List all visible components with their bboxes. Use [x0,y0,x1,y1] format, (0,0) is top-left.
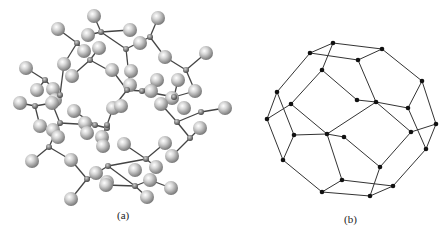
atom-large [165,149,179,163]
atom-small [124,87,130,93]
bond [108,159,146,166]
vertex [356,58,361,63]
atom-large [13,96,27,110]
atom-large [140,190,154,204]
atom-small [74,40,80,46]
atom-large [64,192,78,206]
edge [327,134,342,180]
atom-large [67,104,81,118]
vertex [420,79,425,84]
polyhedron-nodes [265,41,439,199]
atom-large [64,153,78,167]
vertex [265,117,270,122]
atom-large [57,57,71,71]
vertex [292,133,297,138]
atom-small [139,88,145,94]
vertex [391,184,396,189]
edge [358,49,382,60]
atom-large [177,101,191,115]
edge [327,134,344,137]
vertex [342,135,347,140]
edge [344,137,380,167]
edge [322,70,357,100]
atom-large [193,121,207,135]
atom-large [96,139,110,153]
figure: (a) (b) [0,0,448,236]
edge [380,132,411,167]
atom-large [199,46,213,60]
vertex [331,41,336,46]
atom-small [87,57,93,63]
atom-large [144,84,158,98]
panel-a-label: (a) [117,209,129,221]
atom-small [98,29,104,35]
edge [370,167,380,196]
vertex [320,190,325,195]
atom-small [46,144,52,150]
atom-small [132,183,138,189]
vertex [289,102,294,107]
atom-small [42,77,48,83]
vertex [424,147,429,152]
atom-large [51,22,65,36]
atom-large [218,101,232,115]
atom-large [99,178,113,192]
edge [267,92,277,119]
atom-small [174,119,180,125]
polyhedron-edges [267,43,436,196]
edge [426,124,436,149]
edge [310,53,358,60]
atom-large [19,61,33,75]
edge [294,134,327,135]
vertex [380,47,385,52]
atom-large [80,126,94,140]
atom-large [33,119,47,133]
vertex [320,68,325,73]
panel-b-label: (b) [344,213,357,225]
edge [376,102,408,108]
atom-small [198,109,204,115]
vertex [434,122,439,127]
atom-large [81,28,95,42]
atom-large [92,41,106,55]
atom-large [154,97,168,111]
atom-small [92,122,98,128]
edge [342,180,393,186]
edge [283,160,322,192]
edge [333,43,382,49]
bond [177,122,190,138]
atom-small [147,34,153,40]
molecule-ball-stick-diagram [0,0,448,236]
atom-small [104,122,110,128]
atom-large [128,163,142,177]
atom-large [158,50,172,64]
atom-small [187,135,193,141]
atom-large [123,23,137,37]
vertex [275,90,280,95]
edge [322,192,370,196]
edge [267,104,291,119]
edge [376,102,411,132]
atom-large [124,64,138,78]
atom-large [105,63,119,77]
vertex [355,98,360,103]
edge [408,81,422,108]
atom-large [149,160,163,174]
atom-large [158,136,172,150]
vertex [368,194,373,199]
atom-large [25,154,39,168]
atom-small [105,163,111,169]
atom-small [57,92,63,98]
edge [382,49,422,81]
atom-large [30,83,44,97]
vertex [340,178,345,183]
atom-large [164,181,178,195]
edge [393,149,426,186]
atom-large [45,96,59,110]
vertex [378,165,383,170]
vertex [406,106,411,111]
atom-large [117,137,131,151]
vertex [281,158,286,163]
atom-large [51,130,65,144]
atom-large [151,11,165,25]
